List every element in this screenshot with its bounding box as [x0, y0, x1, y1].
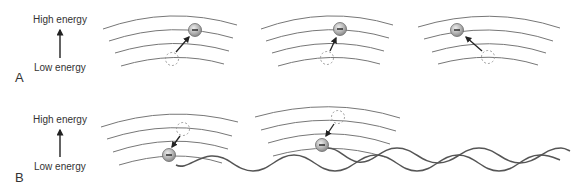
- panel-b-g1-electron: [163, 149, 176, 162]
- panel-a-g2-electron: [334, 23, 347, 36]
- panel-a-g2-transition-arrow: [330, 38, 336, 51]
- panel-b-g2-electron: [316, 139, 329, 152]
- energy-level-diagram: [0, 0, 580, 188]
- panel-a-g1-previous-position: [166, 53, 179, 66]
- panel-a-g1-transition-arrow: [176, 37, 189, 52]
- panel-a-group-1: [103, 16, 237, 66]
- panel-a-g3-electron: [451, 24, 464, 37]
- panel-b-g2-previous-position: [332, 111, 345, 124]
- panel-a-group-2: [261, 16, 393, 66]
- panel-a-group-3: [418, 16, 560, 65]
- panel-a-g1-electron: [189, 24, 202, 37]
- panel-b-group-2: [255, 107, 400, 157]
- panel-b-g1-previous-position: [177, 123, 190, 136]
